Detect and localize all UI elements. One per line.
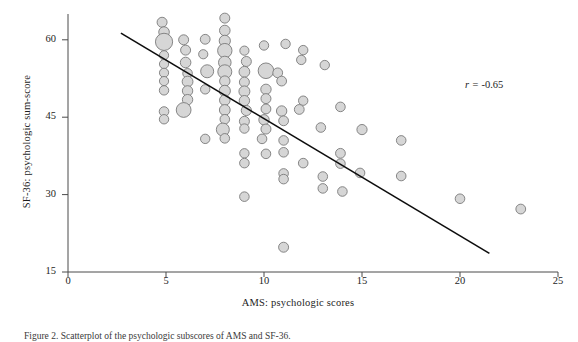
data-point xyxy=(320,60,329,69)
data-point xyxy=(297,55,306,64)
data-point xyxy=(338,187,348,197)
data-point xyxy=(200,34,210,44)
data-point xyxy=(299,96,308,105)
y-tick-label: 30 xyxy=(26,188,56,199)
data-point xyxy=(257,134,267,144)
data-point xyxy=(279,136,289,146)
correlation-annotation: r = -0.65 xyxy=(465,79,503,90)
data-point xyxy=(396,136,406,146)
correlation-equals: = xyxy=(469,79,481,90)
figure-caption: Figure 2. Scatterplot of the psychologic… xyxy=(24,330,564,342)
y-tick-label: 15 xyxy=(26,265,56,276)
data-point xyxy=(159,76,168,85)
y-tick-label: 45 xyxy=(26,110,56,121)
data-point xyxy=(261,84,271,94)
data-point xyxy=(279,116,289,126)
data-point xyxy=(261,94,271,104)
data-point xyxy=(240,192,250,202)
data-point xyxy=(181,45,191,55)
data-point xyxy=(281,39,290,48)
data-point xyxy=(201,134,210,143)
data-point xyxy=(336,102,346,112)
regression-line xyxy=(121,33,489,253)
x-tick-label: 5 xyxy=(151,275,181,286)
data-point xyxy=(220,25,231,36)
data-point xyxy=(455,194,465,204)
y-axis-title: SF-36: psychologic sum-score xyxy=(21,27,32,257)
data-point xyxy=(220,76,230,86)
data-point xyxy=(298,158,308,168)
data-point xyxy=(396,171,406,181)
x-tick-label: 25 xyxy=(543,275,573,286)
data-point xyxy=(220,13,230,23)
data-point xyxy=(240,46,249,55)
data-markers-layer xyxy=(155,13,525,252)
data-point xyxy=(336,148,346,158)
data-point xyxy=(219,105,230,116)
data-point xyxy=(318,172,328,182)
data-point xyxy=(159,86,168,95)
data-point xyxy=(259,41,268,50)
y-tick-label: 60 xyxy=(26,33,56,44)
data-point xyxy=(316,123,326,133)
data-point xyxy=(279,174,289,184)
data-point xyxy=(261,149,271,159)
data-point xyxy=(201,65,214,78)
data-point xyxy=(155,33,172,50)
data-point xyxy=(240,149,249,158)
data-point xyxy=(241,56,251,66)
regression-line-layer xyxy=(121,33,489,253)
correlation-value: -0.65 xyxy=(481,79,503,90)
data-point xyxy=(220,95,231,106)
data-point xyxy=(277,76,287,86)
x-axis-title: AMS: psychologic scores xyxy=(0,297,578,308)
data-point xyxy=(180,57,191,68)
data-point xyxy=(239,66,250,77)
data-point xyxy=(159,115,168,124)
data-point xyxy=(199,50,208,59)
data-point xyxy=(218,43,232,57)
data-point xyxy=(176,103,191,118)
data-point xyxy=(276,106,286,116)
data-point xyxy=(258,63,274,79)
data-point xyxy=(261,104,271,114)
data-point xyxy=(318,184,328,194)
data-point xyxy=(240,124,249,133)
data-point xyxy=(516,204,526,214)
data-point xyxy=(179,35,189,45)
data-point xyxy=(279,242,289,252)
data-point xyxy=(294,105,304,115)
x-tick-label: 15 xyxy=(347,275,377,286)
data-point xyxy=(157,17,167,27)
x-tick-label: 10 xyxy=(249,275,279,286)
data-point xyxy=(357,124,367,134)
data-point xyxy=(261,124,271,134)
data-point xyxy=(220,134,230,144)
data-point xyxy=(240,158,250,168)
data-point xyxy=(299,45,308,54)
x-tick-label: 0 xyxy=(53,275,83,286)
x-tick-label: 20 xyxy=(445,275,475,286)
data-point xyxy=(279,147,289,157)
data-point xyxy=(220,114,230,124)
